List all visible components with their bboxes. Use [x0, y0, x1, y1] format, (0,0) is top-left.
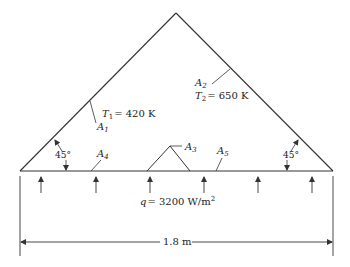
leader-A4: [91, 160, 101, 171]
leader-A1: [90, 101, 96, 123]
label-A1: A1: [96, 121, 109, 134]
dimension-label: 1.8 m: [163, 236, 192, 247]
label-T1: T1= 420 K: [102, 108, 156, 121]
angle-label-left: 45°: [55, 150, 71, 160]
center-ridge-A3: [147, 146, 190, 171]
main-triangle: [20, 13, 333, 171]
label-A2: A2: [194, 77, 207, 90]
leader-A2: [212, 69, 230, 84]
label-T2: T2= 650 K: [195, 90, 249, 103]
leader-A5: [216, 158, 222, 171]
enclosure-diagram: T1= 420 K A1 A2 T2= 650 K A3 A4 A5 45° 4…: [0, 0, 350, 267]
heat-flux-label: q= 3200 W/m2: [140, 195, 215, 207]
label-A3: A3: [184, 141, 197, 154]
heat-flux-arrows: [41, 177, 312, 193]
label-A5: A5: [216, 145, 229, 158]
label-A4: A4: [96, 148, 109, 161]
angle-label-right: 45°: [283, 150, 299, 160]
